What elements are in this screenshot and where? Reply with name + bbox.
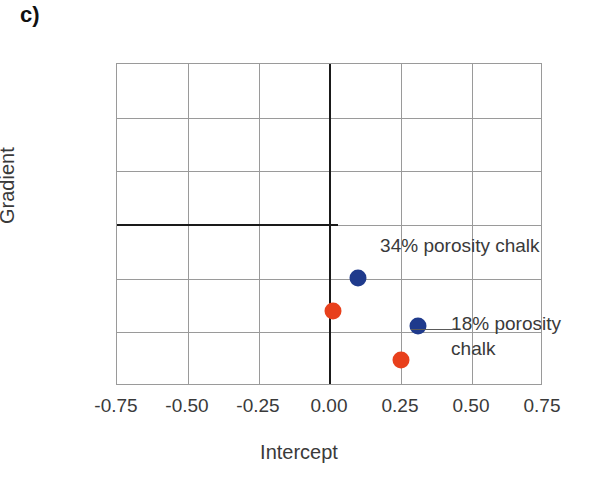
series-annotation: 34% porosity chalk	[380, 233, 539, 259]
x-tick-label: 0.50	[431, 395, 511, 417]
annotation-leader-line	[411, 329, 454, 330]
y-axis-label: Gradient	[0, 147, 19, 224]
figure-panel-c: c) 0.750.500.250.00-0.25-0.50-0.75 -0.75…	[0, 0, 598, 487]
x-tick-label: 0.75	[502, 395, 582, 417]
panel-label: c)	[20, 2, 40, 28]
gridline-vertical	[401, 64, 402, 384]
x-tick-label: -0.50	[147, 395, 227, 417]
data-point	[350, 269, 367, 286]
zero-axis-horizontal	[117, 224, 338, 226]
data-point	[324, 302, 341, 319]
data-point	[410, 317, 427, 334]
data-point	[393, 352, 410, 369]
series-annotation: 18% porosity chalk	[451, 311, 561, 362]
x-tick-label: 0.00	[289, 395, 369, 417]
x-axis-label: Intercept	[0, 441, 598, 464]
x-tick-label: -0.25	[218, 395, 298, 417]
x-tick-label: 0.25	[360, 395, 440, 417]
x-tick-label: -0.75	[76, 395, 156, 417]
